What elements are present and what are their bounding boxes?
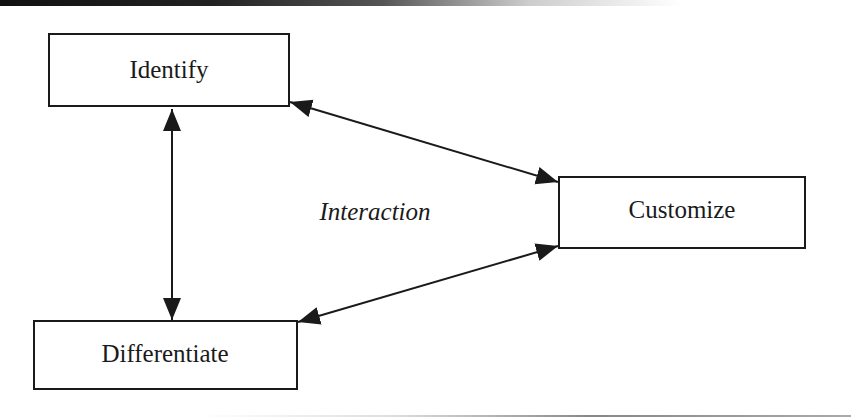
node-differentiate-label: Differentiate	[101, 340, 228, 367]
edge-identify-customize	[290, 102, 558, 182]
node-identify: Identify	[49, 34, 289, 106]
interaction-diagram: Identify Customize Differentiate Interac…	[0, 0, 851, 419]
node-identify-label: Identify	[129, 56, 209, 83]
center-label-interaction: Interaction	[318, 198, 430, 225]
node-customize-label: Customize	[629, 196, 736, 223]
edge-differentiate-customize	[298, 246, 558, 322]
node-differentiate: Differentiate	[34, 321, 297, 389]
node-customize: Customize	[559, 177, 805, 248]
